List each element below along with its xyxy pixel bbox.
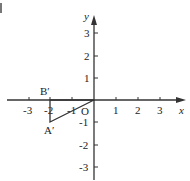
corner-mark (0, 3, 2, 13)
point-a-prime-label: A′ (44, 124, 54, 136)
x-axis-arrow-icon (176, 97, 186, 103)
y-tick-label: -3 (79, 161, 89, 173)
y-tick-label: -1 (79, 116, 88, 128)
y-tick-label: -2 (79, 139, 88, 151)
x-axis-label: x (178, 104, 184, 116)
x-tick-label: 2 (135, 104, 141, 116)
x-tick-label: 3 (157, 104, 163, 116)
x-tick-label: -3 (23, 104, 33, 116)
point-b-prime-label: B′ (40, 85, 50, 97)
y-tick-label: 1 (84, 72, 90, 84)
y-axis-arrow-icon (91, 15, 97, 25)
coordinate-plane: -3 -2 -1 1 2 3 3 2 1 -1 -2 -3 y x O B′ A… (0, 0, 190, 181)
y-tick-label: 3 (84, 27, 90, 39)
x-tick-label: -2 (44, 104, 53, 116)
y-tick-label: 2 (84, 50, 90, 62)
x-tick-label: 1 (113, 104, 119, 116)
y-axis-label: y (83, 10, 89, 22)
origin-label: O (81, 105, 89, 117)
